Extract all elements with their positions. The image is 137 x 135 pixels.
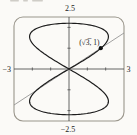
figure-eight-plot-figure: 2.5 −2.5 −3 3 (√3̅, 1) bbox=[0, 0, 137, 135]
y-min-label: −2.5 bbox=[61, 125, 76, 134]
x-max-label: 3 bbox=[127, 65, 131, 74]
plot-canvas: 2.5 −2.5 −3 3 (√3̅, 1) bbox=[0, 0, 137, 135]
y-max-label: 2.5 bbox=[65, 4, 75, 13]
point-label: (√3̅, 1) bbox=[79, 38, 100, 47]
cropped-text-artifact bbox=[10, 0, 43, 2]
point-marker bbox=[99, 46, 103, 50]
x-min-label: −3 bbox=[2, 65, 11, 74]
